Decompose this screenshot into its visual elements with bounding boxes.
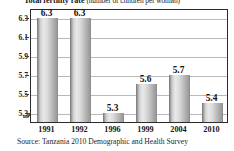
- chart-title: Total fertility rate (number of children…: [24, 0, 230, 5]
- bar: [136, 84, 157, 122]
- y-axis-tick-mark: [25, 56, 29, 57]
- bars-group: [31, 10, 227, 122]
- y-axis-tick-mark: [25, 75, 29, 76]
- chart-title-subtitle: (number of children per woman): [86, 0, 179, 5]
- x-axis-tick-label: 1996: [97, 124, 129, 135]
- bar: [169, 75, 190, 123]
- x-axis-tick-label: 1992: [64, 124, 96, 135]
- chart-title-main: Total fertility rate: [24, 0, 86, 5]
- x-axis-tick-label: 2004: [163, 124, 195, 135]
- bar: [70, 18, 91, 123]
- x-axis-tick-label: 1991: [31, 124, 63, 135]
- bar-value-label: 5.3: [99, 103, 127, 113]
- bar-value-label: 5.6: [132, 74, 160, 84]
- bar-value-label: 6.3: [33, 8, 61, 18]
- bar-value-label: 5.4: [198, 93, 226, 103]
- fertility-rate-bar-chart: Total fertility rate (number of children…: [0, 0, 234, 151]
- bar: [37, 18, 58, 123]
- bar-value-label: 6.3: [66, 8, 94, 18]
- source-note: Source: Tanzania 2010 Demographic and He…: [17, 137, 188, 146]
- bar-value-label: 5.7: [165, 65, 193, 75]
- x-axis-tick-label: 1999: [130, 124, 162, 135]
- bar: [202, 103, 223, 122]
- y-axis-tick-mark: [25, 18, 29, 19]
- bar: [103, 113, 124, 123]
- x-axis: 199119921996199920042010: [30, 124, 228, 136]
- y-axis-tick-mark: [25, 94, 29, 95]
- y-axis-tick-mark: [25, 37, 29, 38]
- x-axis-tick-label: 2010: [196, 124, 228, 135]
- plot-area: [30, 9, 228, 123]
